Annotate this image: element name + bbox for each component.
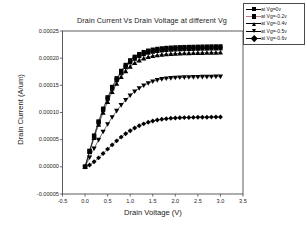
- legend-marker-sample: [246, 20, 261, 27]
- legend-marker-sample: [246, 6, 261, 13]
- legend-item-label: at Vg=-0.5v: [261, 28, 287, 35]
- legend-item-label: at Vg=-0.2v: [261, 13, 287, 20]
- diamond-marker-icon: [251, 36, 257, 42]
- legend-item[interactable]: at Vg=0v: [245, 6, 303, 13]
- square-marker-icon: [252, 7, 257, 12]
- data-series: [83, 115, 223, 170]
- chart-legend: at Vg=0vat Vg=-0.2vat Vg=-0.4vat Vg=-0.5…: [243, 3, 305, 45]
- triangle-down-marker-icon: [252, 29, 256, 33]
- square-marker-icon: [252, 14, 257, 19]
- legend-item-label: at Vg=-0.4v: [261, 20, 287, 27]
- triangle-up-marker-icon: [252, 22, 256, 26]
- legend-marker-sample: [246, 13, 261, 20]
- legend-marker-sample: [246, 28, 261, 35]
- legend-marker-sample: [246, 35, 261, 42]
- legend-item[interactable]: at Vg=-0.4v: [245, 20, 303, 27]
- chart-figure: Drain Current Vs Drain Voltage at differ…: [0, 0, 307, 231]
- data-series: [83, 44, 223, 169]
- legend-item[interactable]: at Vg=-0.6v: [245, 35, 303, 42]
- legend-item[interactable]: at Vg=-0.2v: [245, 13, 303, 20]
- legend-item-label: at Vg=0v: [261, 6, 281, 13]
- data-series: [83, 46, 223, 169]
- legend-item-label: at Vg=-0.6v: [261, 35, 287, 42]
